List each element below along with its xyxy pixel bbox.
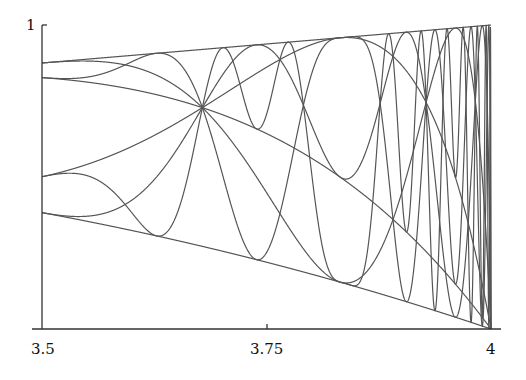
curve-iterate-2 — [42, 213, 491, 329]
x-tick-label-3.5: 3.5 — [31, 340, 55, 358]
plot-area — [0, 0, 526, 380]
x-tick-label-4: 4 — [486, 340, 496, 358]
curve-iterate-4 — [42, 38, 491, 330]
y-tick-label-1: 1 — [26, 16, 36, 34]
curve-iterate-5 — [42, 28, 491, 329]
chart: 1 3.5 3.75 4 — [0, 0, 526, 380]
x-tick-label-3.75: 3.75 — [250, 340, 283, 358]
curve-iterate-7 — [42, 25, 491, 329]
iterate-curves — [42, 25, 491, 329]
